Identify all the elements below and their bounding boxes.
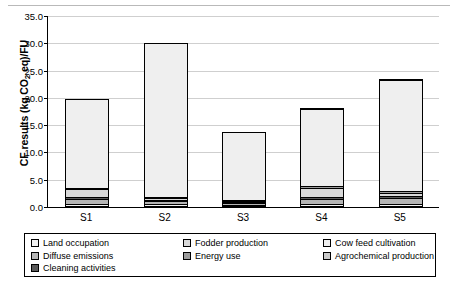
x-axis-label-s2: S2 [135, 212, 195, 223]
bar-segment [144, 43, 188, 197]
top-divider [8, 5, 450, 6]
gridline [48, 43, 439, 44]
bar-s3 [222, 132, 266, 207]
plot-area: 0.05.010.015.020.025.030.035.0 [47, 16, 439, 208]
y-axis-tick-mark [44, 98, 48, 99]
y-axis-tick-mark [44, 16, 48, 17]
legend-item: Agrochemical production [323, 251, 443, 261]
y-axis-tick-label: 20.0 [25, 92, 44, 103]
legend-swatch-icon [183, 252, 191, 260]
legend-label: Diffuse emissions [43, 251, 113, 261]
legend-label: Agrochemical production [335, 251, 434, 261]
y-axis-tick-label: 15.0 [25, 120, 44, 131]
bar-segment [300, 204, 344, 207]
legend-label: Cleaning activities [43, 263, 116, 273]
chart-legend: Land occupationFodder productionCow feed… [24, 233, 436, 277]
y-axis-tick-mark [44, 125, 48, 126]
y-axis-tick-mark [44, 180, 48, 181]
bar-segment [144, 204, 188, 207]
legend-swatch-icon [183, 239, 191, 247]
bar-segment [222, 132, 266, 201]
y-axis-tick-label: 5.0 [30, 174, 43, 185]
y-axis-tick-mark [44, 152, 48, 153]
y-axis-tick-label: 35.0 [25, 11, 44, 22]
legend-swatch-icon [323, 239, 331, 247]
gridline [48, 71, 439, 72]
x-axis-label-s5: S5 [370, 212, 430, 223]
legend-swatch-icon [31, 264, 39, 272]
y-axis-tick-mark [44, 71, 48, 72]
legend-item: Diffuse emissions [31, 251, 183, 261]
x-axis-label-s4: S4 [291, 212, 351, 223]
chart-screenshot: CF results (kg CO2 eq)/FU 0.05.010.015.0… [0, 0, 458, 282]
y-axis-tick-mark [44, 43, 48, 44]
y-axis-tick-label: 10.0 [25, 147, 44, 158]
legend-item: Cow feed cultivation [323, 238, 443, 248]
y-axis-tick-label: 30.0 [25, 38, 44, 49]
legend-label: Energy use [195, 251, 241, 261]
y-axis-tick-label: 0.0 [30, 202, 43, 213]
legend-swatch-icon [31, 252, 39, 260]
gridline [48, 16, 439, 17]
bar-s1 [65, 99, 109, 207]
legend-item: Cleaning activities [31, 263, 183, 273]
legend-label: Fodder production [195, 238, 268, 248]
bar-segment [222, 205, 266, 207]
legend-grid: Land occupationFodder productionCow feed… [31, 237, 429, 275]
bar-segment [300, 109, 344, 186]
legend-swatch-icon [31, 239, 39, 247]
legend-swatch-icon [323, 252, 331, 260]
legend-label: Cow feed cultivation [335, 238, 416, 248]
bar-segment [379, 204, 423, 207]
bar-segment [379, 80, 423, 192]
y-axis-tick-mark [44, 207, 48, 208]
bar-s4 [300, 108, 344, 207]
x-axis-label-s3: S3 [213, 212, 273, 223]
x-axis-label-s1: S1 [56, 212, 116, 223]
legend-item: Energy use [183, 251, 323, 261]
bar-segment [65, 99, 109, 188]
bar-s2 [144, 43, 188, 207]
carbon-footprint-chart: CF results (kg CO2 eq)/FU 0.05.010.015.0… [0, 8, 458, 230]
legend-item: Land occupation [31, 238, 183, 248]
legend-item: Fodder production [183, 238, 323, 248]
bar-s5 [379, 79, 423, 207]
legend-label: Land occupation [43, 238, 109, 248]
y-axis-tick-label: 25.0 [25, 65, 44, 76]
bar-segment [65, 204, 109, 207]
